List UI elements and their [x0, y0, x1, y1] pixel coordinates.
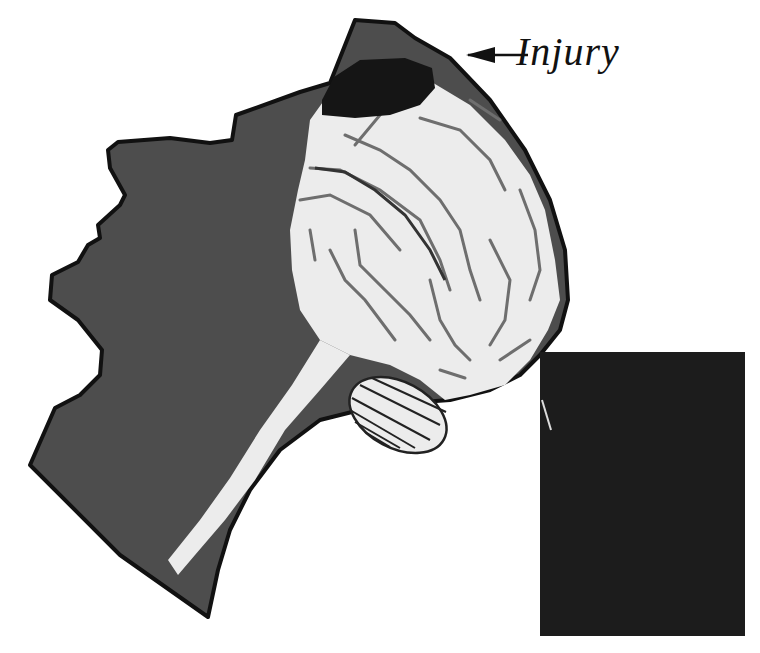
black-panel	[540, 352, 745, 636]
head-brain-diagram	[0, 0, 760, 653]
injury-label: Injury	[516, 28, 620, 75]
